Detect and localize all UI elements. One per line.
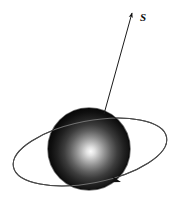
spin-axis-label: S (140, 11, 146, 23)
figure-root: S (0, 0, 178, 205)
diagram-canvas: S (0, 0, 178, 205)
spin-axis-arrow (104, 13, 132, 114)
